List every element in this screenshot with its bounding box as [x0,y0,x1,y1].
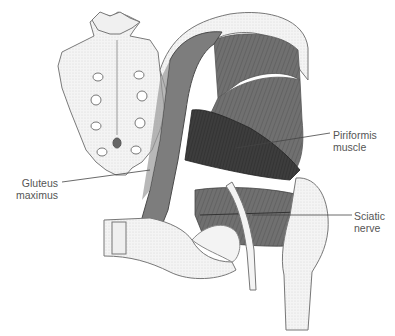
label-line: Sciatic [354,210,385,222]
label-piriformis-muscle: Piriformis muscle [333,129,377,153]
label-line: maximus [12,189,58,201]
label-line: Piriformis [333,129,377,141]
label-sciatic-nerve: Sciatic nerve [354,210,385,234]
anatomy-illustration: Piriformis muscle Gluteus maximus Sciati… [0,0,395,336]
label-line: Gluteus [12,177,58,189]
leader-line-gluteus [62,170,150,182]
label-line: muscle [333,141,377,153]
label-gluteus-maximus: Gluteus maximus [12,177,58,201]
sacrum [58,12,165,175]
pelvis-hip-drawing [0,0,395,336]
label-line: nerve [354,222,385,234]
